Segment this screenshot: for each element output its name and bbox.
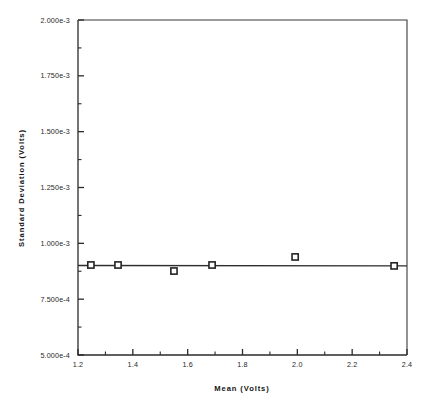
x-tick-label: 2.0 xyxy=(292,360,302,369)
x-tick-label: 2.4 xyxy=(402,360,412,369)
x-tick-label: 1.4 xyxy=(128,360,138,369)
y-axis-ticks xyxy=(78,20,84,355)
data-point-marker xyxy=(209,262,215,268)
x-axis-tick-labels: 1.21.41.61.82.02.22.4 xyxy=(73,360,412,369)
x-tick-label: 1.8 xyxy=(237,360,247,369)
data-point-markers xyxy=(88,254,397,274)
y-tick-label: 7.500e-4 xyxy=(40,295,70,304)
y-axis-tick-labels: 5.000e-47.500e-41.000e-31.250e-31.500e-3… xyxy=(40,16,70,360)
data-point-marker xyxy=(88,262,94,268)
x-tick-label: 1.6 xyxy=(182,360,192,369)
y-tick-label: 2.000e-3 xyxy=(40,16,70,25)
chart-container: 1.21.41.61.82.02.22.4 5.000e-47.500e-41.… xyxy=(0,0,424,409)
scatter-plot: 1.21.41.61.82.02.22.4 5.000e-47.500e-41.… xyxy=(0,0,424,409)
y-tick-label: 1.000e-3 xyxy=(40,239,70,248)
plot-frame xyxy=(78,20,407,355)
x-axis-title: Mean (Volts) xyxy=(214,384,269,393)
data-point-marker xyxy=(171,268,177,274)
data-point-marker xyxy=(115,262,121,268)
data-point-marker xyxy=(391,263,397,269)
y-tick-label: 1.250e-3 xyxy=(40,183,70,192)
y-tick-label: 5.000e-4 xyxy=(40,351,70,360)
y-tick-label: 1.750e-3 xyxy=(40,71,70,80)
x-axis-ticks xyxy=(78,349,407,355)
y-tick-label: 1.500e-3 xyxy=(40,127,70,136)
x-tick-label: 1.2 xyxy=(73,360,83,369)
data-point-marker xyxy=(292,254,298,260)
y-axis-title: Standard Deviation (Volts) xyxy=(17,129,26,247)
x-tick-label: 2.2 xyxy=(347,360,357,369)
